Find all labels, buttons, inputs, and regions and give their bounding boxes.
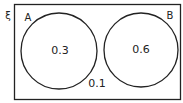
universal-set-symbol: ξ [5,11,11,21]
set-b-label: B [167,11,174,21]
set-b-value: 0.6 [132,44,150,55]
set-a-value: 0.3 [51,45,69,56]
set-a-label: A [25,13,32,23]
outside-value: 0.1 [88,78,106,89]
